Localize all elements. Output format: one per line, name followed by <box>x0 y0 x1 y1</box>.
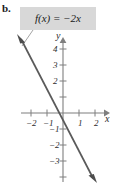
x-tick-label: 2 <box>94 119 99 128</box>
graph-line-guide <box>22 131 92 176</box>
x-tick-label: −2 <box>26 119 37 128</box>
y-tick-label: −3 <box>49 157 60 166</box>
y-tick-label: 4 <box>53 45 58 54</box>
y-tick-label: −2 <box>49 141 60 150</box>
function-line-lower-arrowhead-icon <box>89 174 98 183</box>
x-axis-label: x <box>105 114 109 124</box>
figure-panel-b: b. f(x) = −2x <box>0 0 119 190</box>
y-axis-arrowhead-icon <box>60 37 67 43</box>
y-tick-label: −1 <box>49 125 60 134</box>
y-axis-label: y <box>56 31 60 41</box>
x-tick-label: 1 <box>78 119 83 128</box>
y-tick-label: 3 <box>53 61 58 70</box>
y-tick-label: 2 <box>53 77 58 86</box>
function-line-upper-arrowhead-icon <box>17 34 25 44</box>
